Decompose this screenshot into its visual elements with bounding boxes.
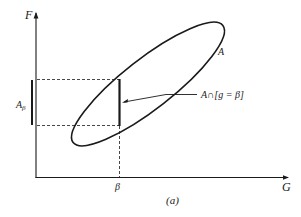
set-a-label: A xyxy=(218,47,224,57)
diagram-canvas xyxy=(0,0,301,217)
beta-tick-label: β xyxy=(115,182,120,192)
a-beta-sub: β xyxy=(22,104,26,112)
pointer-arrowhead-icon xyxy=(122,99,128,103)
diagram-figure: F G A Aβ β A∩[g = β] (a) xyxy=(0,0,301,217)
intersection-label: A∩[g = β] xyxy=(201,90,244,100)
set-a-ellipse xyxy=(58,6,239,162)
intersection-pointer xyxy=(124,95,197,103)
f-axis-label: F xyxy=(25,9,32,21)
g-axis-label: G xyxy=(282,181,291,193)
figure-caption: (a) xyxy=(166,195,179,206)
a-beta-label: Aβ xyxy=(16,100,26,112)
